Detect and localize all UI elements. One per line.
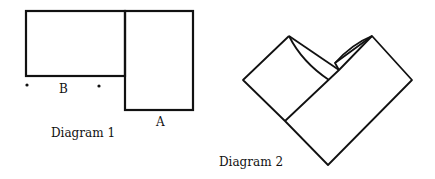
left-flap-edge bbox=[289, 36, 339, 70]
label-b: B bbox=[59, 82, 68, 96]
diagram-2 bbox=[243, 36, 412, 165]
rectangle-b bbox=[26, 11, 125, 76]
point-left bbox=[25, 83, 28, 86]
rectangle-a bbox=[125, 11, 193, 110]
diagram-1: B A Diagram 1 bbox=[25, 11, 193, 140]
diagram-1-caption: Diagram 1 bbox=[51, 126, 115, 140]
label-a: A bbox=[155, 115, 165, 129]
point-right bbox=[97, 84, 100, 87]
diagonal-fold bbox=[285, 36, 372, 121]
left-flap-fold bbox=[289, 36, 329, 80]
diagram-2-caption: Diagram 2 bbox=[219, 155, 283, 169]
heart-outline bbox=[243, 36, 412, 165]
diagrams-canvas: B A Diagram 1 Diagram 2 bbox=[0, 0, 435, 179]
